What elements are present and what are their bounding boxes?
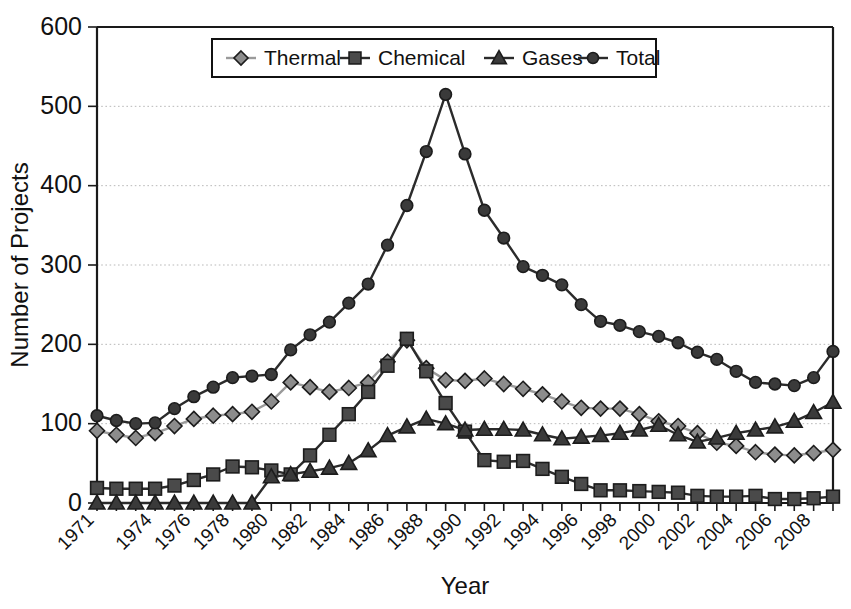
datapoint-total-1997	[595, 315, 607, 327]
datapoint-chemical-1986	[381, 359, 394, 372]
datapoint-chemical-1975	[168, 479, 181, 492]
x-tick-label-2004: 2004	[692, 509, 737, 554]
datapoint-total-2004	[730, 365, 742, 377]
datapoint-total-1985	[362, 278, 374, 290]
datapoint-total-1995	[556, 279, 568, 291]
datapoint-total-1978	[227, 372, 239, 384]
x-tick-label-1994: 1994	[499, 509, 544, 554]
datapoint-total-2007	[788, 380, 800, 392]
datapoint-total-1987	[401, 200, 413, 212]
datapoint-total-1992	[498, 232, 510, 244]
x-tick-label-1974: 1974	[111, 509, 156, 554]
datapoint-total-2009	[827, 346, 839, 358]
datapoint-total-2002	[692, 346, 704, 358]
datapoint-total-1979	[246, 370, 258, 382]
x-tick-label-1971: 1971	[53, 509, 98, 554]
datapoint-chemical-2006	[769, 493, 782, 506]
datapoint-total-1974	[149, 417, 161, 429]
legend-label-thermal: Thermal	[264, 46, 341, 69]
x-tick-label-1984: 1984	[305, 509, 350, 554]
x-tick-label-1996: 1996	[537, 509, 582, 554]
datapoint-total-1976	[188, 391, 200, 403]
line-chart: 0100200300400500600197119741976197819801…	[0, 0, 851, 609]
datapoint-chemical-1991	[478, 454, 491, 467]
legend-label-gases: Gases	[522, 46, 583, 69]
datapoint-chemical-1973	[129, 482, 142, 495]
datapoint-chemical-1979	[246, 461, 259, 474]
x-tick-label-2006: 2006	[731, 509, 776, 554]
datapoint-total-2003	[711, 354, 723, 366]
datapoint-total-1983	[324, 316, 336, 328]
datapoint-chemical-1995	[555, 470, 568, 483]
datapoint-total-1973	[130, 418, 142, 430]
datapoint-chemical-1993	[517, 455, 530, 468]
legend-label-total: Total	[616, 46, 660, 69]
datapoint-chemical-2005	[749, 489, 762, 502]
y-tick-label-600: 600	[40, 12, 82, 40]
datapoint-total-1988	[420, 146, 432, 158]
datapoint-total-1998	[614, 319, 626, 331]
datapoint-chemical-1976	[187, 474, 200, 487]
x-tick-label-1990: 1990	[421, 509, 466, 554]
y-tick-label-500: 500	[40, 91, 82, 119]
y-tick-label-100: 100	[40, 408, 82, 436]
datapoint-total-1986	[382, 239, 394, 251]
datapoint-chemical-2003	[710, 490, 723, 503]
y-tick-label-400: 400	[40, 170, 82, 198]
x-tick-label-1978: 1978	[189, 509, 234, 554]
datapoint-total-2000	[653, 331, 665, 343]
y-tick-label-300: 300	[40, 250, 82, 278]
datapoint-chemical-2002	[691, 489, 704, 502]
legend-marker-circle-icon	[588, 53, 599, 64]
datapoint-chemical-1989	[439, 397, 452, 410]
datapoint-chemical-2008	[807, 492, 820, 505]
datapoint-chemical-1977	[207, 468, 220, 481]
legend-marker-square-icon	[349, 52, 361, 64]
chart-container: 0100200300400500600197119741976197819801…	[0, 0, 851, 609]
datapoint-total-1982	[304, 329, 316, 341]
x-axis-title: Year	[441, 572, 490, 599]
datapoint-chemical-2009	[827, 490, 840, 503]
datapoint-chemical-1985	[362, 386, 375, 399]
chart-legend: ThermalChemicalGasesTotal	[212, 39, 660, 77]
datapoint-chemical-1992	[497, 455, 510, 468]
datapoint-total-2005	[750, 377, 762, 389]
datapoint-chemical-1994	[536, 463, 549, 476]
x-tick-label-1982: 1982	[266, 509, 311, 554]
datapoint-chemical-1996	[575, 478, 588, 491]
datapoint-total-1996	[575, 299, 587, 311]
datapoint-total-1993	[517, 261, 529, 273]
datapoint-chemical-2007	[788, 493, 801, 506]
datapoint-total-1972	[111, 415, 123, 427]
datapoint-chemical-1983	[323, 428, 336, 441]
datapoint-total-1981	[285, 344, 297, 356]
datapoint-chemical-1978	[226, 460, 239, 473]
x-tick-label-1976: 1976	[150, 509, 195, 554]
datapoint-chemical-1971	[91, 482, 104, 495]
datapoint-total-2006	[769, 378, 781, 390]
datapoint-total-1991	[479, 204, 491, 216]
datapoint-total-2001	[672, 337, 684, 349]
datapoint-total-1984	[343, 297, 355, 309]
datapoint-total-2008	[808, 372, 820, 384]
y-axis-title: Number of Projects	[6, 162, 33, 367]
legend-label-chemical: Chemical	[378, 46, 466, 69]
datapoint-chemical-1997	[594, 484, 607, 497]
datapoint-total-1977	[207, 381, 219, 393]
datapoint-chemical-1974	[149, 482, 162, 495]
x-tick-label-1986: 1986	[344, 509, 389, 554]
x-tick-label-2008: 2008	[770, 509, 815, 554]
datapoint-total-1999	[633, 326, 645, 338]
x-tick-label-2000: 2000	[615, 509, 660, 554]
datapoint-chemical-1987	[401, 332, 414, 345]
datapoint-chemical-2001	[672, 486, 685, 499]
x-tick-label-1998: 1998	[576, 509, 621, 554]
datapoint-chemical-1988	[420, 365, 433, 378]
datapoint-chemical-2004	[730, 490, 743, 503]
datapoint-chemical-1972	[110, 482, 123, 495]
datapoint-chemical-1998	[614, 484, 627, 497]
datapoint-total-1990	[459, 148, 471, 160]
datapoint-total-1994	[537, 269, 549, 281]
datapoint-total-1975	[169, 403, 181, 415]
datapoint-chemical-2000	[652, 486, 665, 499]
